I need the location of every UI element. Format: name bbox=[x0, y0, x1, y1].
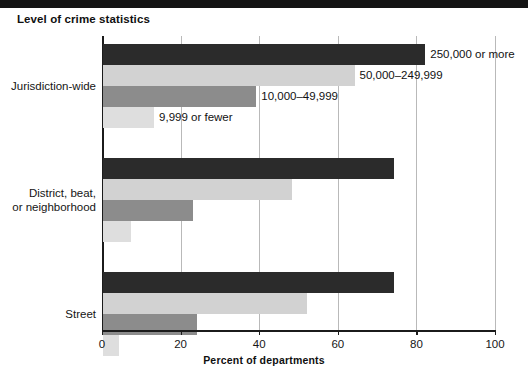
x-axis-tick bbox=[495, 330, 496, 335]
x-axis-tick bbox=[259, 330, 260, 335]
category-label-line: Jurisdiction-wide bbox=[0, 79, 96, 93]
gridline bbox=[495, 36, 496, 330]
bar bbox=[103, 107, 154, 128]
x-axis-tick-label: 0 bbox=[99, 338, 105, 350]
x-axis-tick-label: 40 bbox=[253, 338, 266, 350]
x-axis-tick-label: 60 bbox=[331, 338, 344, 350]
bar bbox=[103, 44, 425, 65]
series-data-label: 50,000–249,999 bbox=[360, 65, 443, 86]
category-label-line: District, beat, bbox=[0, 186, 96, 200]
x-axis-title: Percent of departments bbox=[0, 354, 528, 366]
bar bbox=[103, 272, 394, 293]
series-data-label: 10,000–49,999 bbox=[261, 86, 338, 107]
x-axis-line bbox=[102, 330, 496, 332]
x-axis-tick bbox=[416, 330, 417, 335]
chart-title: Level of crime statistics bbox=[17, 13, 150, 25]
bar bbox=[103, 179, 292, 200]
bar bbox=[103, 86, 256, 107]
bar bbox=[103, 335, 119, 356]
bar bbox=[103, 314, 197, 335]
x-axis-tick-label: 80 bbox=[410, 338, 423, 350]
series-data-label: 250,000 or more bbox=[430, 44, 514, 65]
bar bbox=[103, 200, 193, 221]
bar bbox=[103, 65, 355, 86]
top-rule-divider bbox=[0, 0, 528, 8]
chart-figure: Level of crime statistics Jurisdiction-w… bbox=[0, 0, 528, 369]
plot-area: 250,000 or more50,000–249,99910,000–49,9… bbox=[102, 36, 495, 330]
y-axis-category-labels: Jurisdiction-wideDistrict, beat,or neigh… bbox=[0, 36, 96, 330]
category-label-line: Street bbox=[0, 307, 96, 321]
category-label: Jurisdiction-wide bbox=[0, 79, 96, 93]
bar bbox=[103, 293, 307, 314]
bar bbox=[103, 158, 394, 179]
category-label: District, beat,or neighborhood bbox=[0, 186, 96, 214]
x-axis-tick bbox=[181, 330, 182, 335]
bar bbox=[103, 221, 131, 242]
x-axis-tick-label: 20 bbox=[174, 338, 187, 350]
series-data-label: 9,999 or fewer bbox=[159, 107, 233, 128]
category-label: Street bbox=[0, 307, 96, 321]
x-axis-tick bbox=[102, 330, 103, 335]
x-axis-tick bbox=[338, 330, 339, 335]
category-label-line: or neighborhood bbox=[0, 200, 96, 214]
x-axis-tick-label: 100 bbox=[485, 338, 504, 350]
